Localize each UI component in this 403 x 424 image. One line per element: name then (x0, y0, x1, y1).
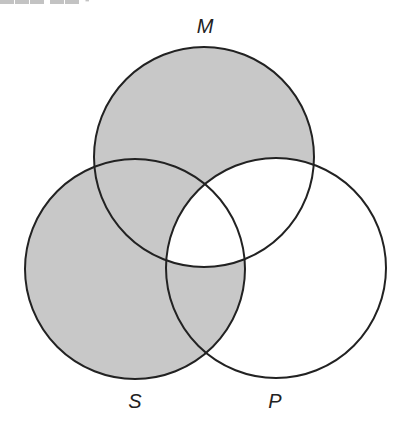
venn-svg (0, 0, 403, 424)
venn-diagram: ▬▬▬ ▬▬ ▪ (0, 0, 403, 424)
set-label-p: P (268, 391, 281, 411)
set-label-m: M (197, 16, 214, 36)
set-label-s: S (128, 391, 141, 411)
